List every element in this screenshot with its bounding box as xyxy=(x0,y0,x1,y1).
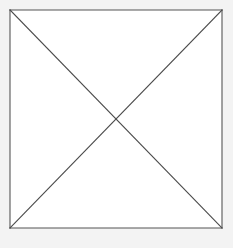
square-with-diagonals-figure xyxy=(0,0,233,248)
figure-canvas xyxy=(0,0,233,248)
